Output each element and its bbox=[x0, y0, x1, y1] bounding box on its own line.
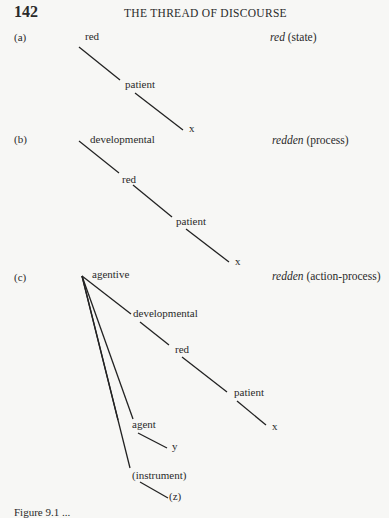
figure-caption: Figure 9.1 ... bbox=[14, 506, 70, 518]
figure-label-a: (a) bbox=[14, 31, 26, 43]
gloss-word: red bbox=[270, 31, 285, 43]
gloss-type: (action-process) bbox=[306, 270, 380, 282]
node-x: x bbox=[235, 255, 241, 267]
node-x: x bbox=[272, 420, 278, 432]
gloss-type: (state) bbox=[288, 31, 317, 43]
node-x: x bbox=[189, 122, 195, 134]
node-developmental: developmental bbox=[133, 307, 198, 319]
gloss-b: redden (process) bbox=[272, 134, 349, 146]
figure-label-b: (b) bbox=[14, 133, 27, 145]
node-agentive: agentive bbox=[92, 268, 129, 280]
node-developmental: developmental bbox=[90, 133, 155, 145]
gloss-c: redden (action-process) bbox=[272, 270, 380, 282]
node-red: red bbox=[122, 173, 136, 185]
node-red: red bbox=[175, 343, 189, 355]
node-patient: patient bbox=[176, 215, 206, 227]
node-instrument: (instrument) bbox=[132, 469, 186, 481]
gloss-word: redden bbox=[272, 270, 304, 282]
node-agent: agent bbox=[132, 418, 156, 430]
node-red: red bbox=[85, 30, 99, 42]
node-patient: patient bbox=[125, 78, 155, 90]
figure-label-c: (c) bbox=[14, 271, 26, 283]
node-patient: patient bbox=[234, 386, 264, 398]
gloss-a: red (state) bbox=[270, 31, 317, 43]
gloss-word: redden bbox=[272, 134, 304, 146]
node-y: y bbox=[172, 440, 178, 452]
node-z: (z) bbox=[169, 490, 181, 502]
gloss-type: (process) bbox=[306, 134, 348, 146]
